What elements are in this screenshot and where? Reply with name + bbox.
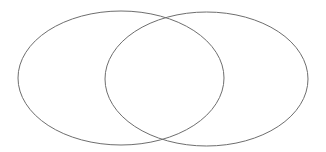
right-set-ellipse <box>105 12 308 146</box>
venn-diagram <box>0 0 326 152</box>
left-set-ellipse <box>18 11 224 145</box>
